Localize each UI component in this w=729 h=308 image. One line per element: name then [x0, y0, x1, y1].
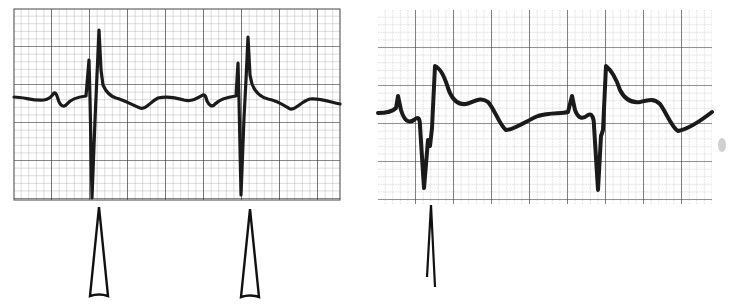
page-smudge [718, 138, 726, 152]
beat-marker-1 [90, 207, 108, 296]
ecg-strip-right [378, 10, 712, 204]
ecg-figure [0, 0, 729, 308]
ecg-strip-left [14, 9, 340, 200]
beat-marker-3 [427, 205, 435, 287]
beat-marker-2 [241, 209, 259, 297]
